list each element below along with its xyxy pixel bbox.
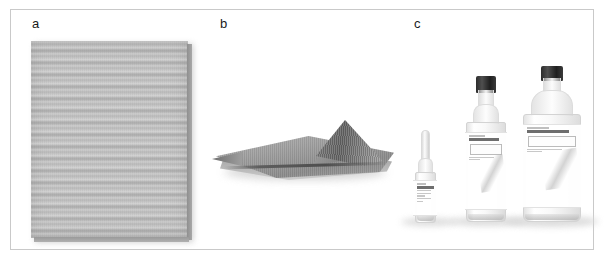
label-text-line: [527, 149, 562, 150]
gauze-pad-bottom-edge: [34, 237, 189, 242]
panel-label-c: c: [414, 17, 421, 30]
label-footer-line: [527, 151, 542, 152]
label-swoosh-graphic: [541, 147, 581, 189]
label-brand-line: [527, 127, 549, 129]
label-title-line: [527, 130, 569, 133]
label-brand-line: [417, 183, 426, 185]
large-bottle-shoulder: [531, 90, 573, 116]
mesh-cloth: [212, 120, 398, 205]
label-info-box: [528, 136, 576, 147]
label-brand-line: [469, 135, 485, 137]
panel-label-b: b: [220, 17, 227, 30]
figure-root: a b c: [0, 0, 607, 263]
medium-spray-bottle: [463, 76, 509, 224]
label-text-line: [417, 190, 431, 191]
gauze-pad-right-edge: [187, 44, 192, 240]
label-swoosh-graphic: [477, 154, 507, 192]
label-text-line: [469, 157, 494, 158]
panel-label-a: a: [32, 17, 39, 30]
small-bottle-label: [413, 180, 437, 216]
large-bottle-base-ring: [525, 214, 579, 220]
medium-bottle-shoulder: [473, 104, 499, 124]
label-text-line: [417, 193, 431, 194]
large-bottle: [521, 66, 583, 224]
panel-a: a: [11, 10, 207, 251]
gauze-weave-texture: [31, 41, 188, 238]
label-title-line: [417, 186, 434, 189]
label-text-line: [417, 195, 425, 197]
panel-c: c: [403, 10, 595, 251]
large-bottle-label: [523, 124, 581, 208]
small-dropper-bottle: [411, 128, 439, 224]
label-footer-line: [417, 201, 423, 202]
label-title-line: [469, 138, 499, 141]
gauze-pad: [31, 41, 188, 238]
panel-b: b: [207, 10, 403, 251]
small-bottle-dropper-cap: [421, 130, 430, 160]
label-info-box: [470, 144, 502, 155]
medium-bottle-label: [465, 132, 507, 210]
label-footer-line: [469, 159, 480, 160]
figure-frame: a b c: [10, 9, 594, 250]
label-text-line: [417, 198, 431, 199]
medium-bottle-base-ring: [468, 214, 504, 220]
